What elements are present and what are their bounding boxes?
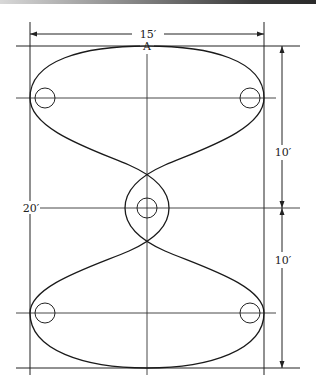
upper-half-dimension-label: 10′ bbox=[275, 146, 292, 159]
arrow-up-icon bbox=[280, 46, 285, 53]
arrow-down-icon bbox=[280, 201, 285, 208]
arrow-down-icon bbox=[280, 361, 285, 368]
lower-half-dimension-label: 10′ bbox=[275, 254, 292, 267]
arrow-up-icon bbox=[280, 208, 285, 215]
arrow-right-icon bbox=[257, 32, 264, 37]
total-height-dimension-label: 20′ bbox=[23, 202, 40, 215]
arrow-left-icon bbox=[30, 32, 37, 37]
figure-eight-diagram: 15′ A 20′ 10′ 10′ bbox=[0, 0, 316, 392]
point-a-label: A bbox=[142, 40, 152, 53]
